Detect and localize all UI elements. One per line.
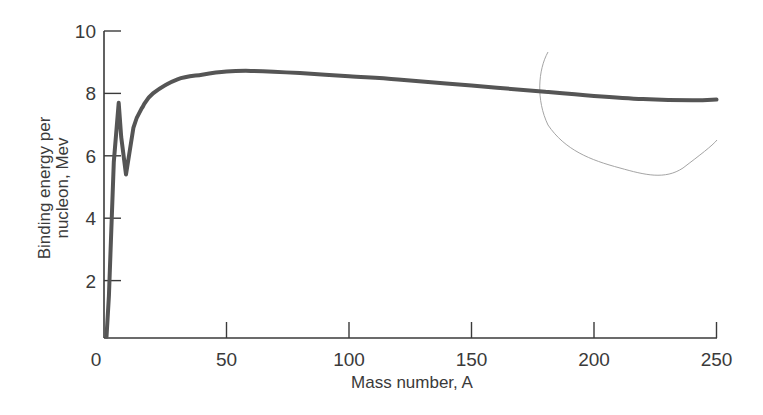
x-tick-label: 150 [456, 349, 488, 370]
y-tick-label: 8 [85, 83, 96, 104]
x-tick-label: 250 [701, 349, 733, 370]
y-axis-label-line1: Binding energy per [35, 116, 54, 259]
x-tick-label: 50 [216, 349, 237, 370]
binding-energy-curve [107, 71, 717, 337]
y-tick-label: 10 [75, 21, 96, 42]
y-tick-label: 6 [85, 146, 96, 167]
x-tick-label: 200 [578, 349, 610, 370]
axis-labels: 0 Mass number, A Binding energy per nucl… [35, 116, 474, 392]
x-axis-label: Mass number, A [351, 373, 474, 392]
x-tick-label: 100 [333, 349, 365, 370]
stray-pencil-mark [540, 52, 717, 175]
x-ticks: 50100150200250 [216, 322, 732, 370]
y-axis-label-line2: nucleon, Mev [53, 137, 72, 239]
y-tick-label: 4 [85, 208, 96, 229]
binding-energy-chart: 246810 50100150200250 0 Mass number, A B… [0, 0, 763, 415]
y-tick-label: 2 [85, 271, 96, 292]
x-origin-label: 0 [91, 349, 102, 370]
